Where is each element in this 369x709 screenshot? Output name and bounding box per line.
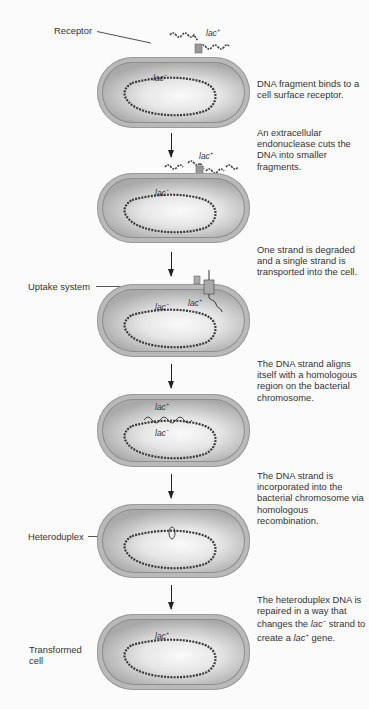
chromosome-icon — [120, 418, 230, 463]
lac-minus-label: lac− — [155, 187, 169, 198]
chromosome-icon — [120, 307, 230, 352]
lac-plus-label: lac+ — [199, 150, 213, 161]
lac-minus-label: lac− — [153, 72, 167, 83]
step-5-description: The DNA strand is incorporated into the … — [257, 470, 367, 526]
lac-minus-label: lac− — [155, 301, 169, 312]
step-3-description: One strand is degraded and a single stra… — [257, 244, 367, 278]
chromosome-icon — [120, 192, 230, 237]
receptor-leader-line — [97, 31, 151, 43]
lac-plus-label: lac+ — [155, 401, 169, 412]
heteroduplex-label: Heteroduplex — [28, 531, 84, 542]
arrow-down-icon — [171, 252, 172, 276]
chromosome-icon — [120, 75, 230, 120]
arrow-down-icon — [171, 133, 172, 157]
chromosome-heteroduplex-icon — [120, 528, 230, 573]
lac-plus-label: lac+ — [155, 630, 169, 641]
arrow-down-icon — [171, 585, 172, 609]
uptake-system-label: Uptake system — [28, 281, 90, 292]
step-1-description: DNA fragment binds to a cell surface rec… — [257, 78, 367, 100]
arrow-down-icon — [171, 364, 172, 388]
step-6-description: The heteroduplex DNA is repaired in a wa… — [257, 594, 367, 643]
lac-plus-label: lac+ — [206, 27, 220, 38]
step-2-description: An extracellular endonuclease cuts the D… — [257, 127, 367, 172]
receptor-label: Receptor — [54, 25, 92, 36]
transformed-cell-label: Transformed cell — [29, 644, 82, 666]
chromosome-icon — [120, 637, 230, 682]
lac-minus-label: lac− — [155, 427, 169, 438]
arrow-down-icon — [171, 474, 172, 498]
step-4-description: The DNA strand aligns itself with a homo… — [257, 358, 367, 403]
dna-fragment-icon — [150, 30, 240, 60]
